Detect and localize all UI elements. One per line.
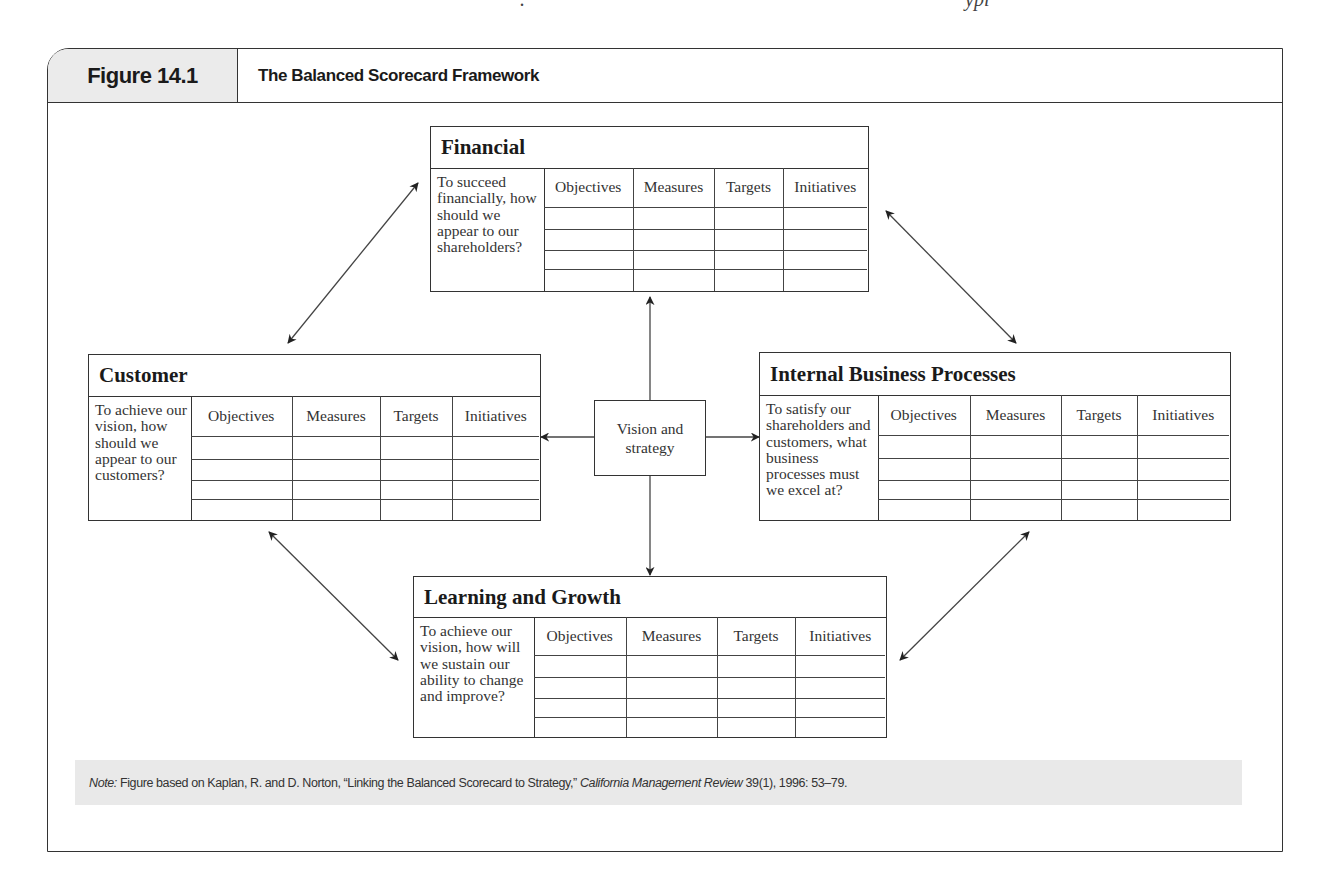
empty-cell (878, 458, 970, 480)
empty-cell (714, 250, 783, 269)
empty-cell (878, 480, 970, 499)
card-title: Learning and Growth (414, 577, 886, 618)
empty-cell (534, 698, 626, 717)
empty-cell (292, 436, 380, 459)
empty-cell (544, 229, 633, 250)
empty-cell (191, 480, 292, 499)
column-header-objectives: Objectives (534, 617, 626, 655)
vision-and-strategy-box: Vision and strategy (594, 400, 706, 476)
note-journal: California Management Review (580, 776, 743, 790)
arrow-customer-financial (288, 183, 418, 343)
card-financial: Financial To succeed financially, how sh… (430, 126, 869, 292)
empty-cell (714, 269, 783, 291)
empty-cell (1061, 499, 1137, 520)
column-header-measures: Measures (292, 396, 380, 436)
empty-cell (452, 499, 539, 520)
empty-cell (795, 677, 885, 698)
empty-cell (380, 499, 452, 520)
card-question: To succeed financially, how should we ap… (431, 169, 545, 291)
empty-cell (878, 435, 970, 458)
arrow-customer-learning (269, 532, 398, 660)
card-question: To satisfy our shareholders and customer… (760, 396, 879, 520)
column-header-initiatives: Initiatives (452, 396, 539, 436)
scorecard-table: Objectives Measures Targets Initiatives (534, 617, 885, 737)
empty-cell (714, 229, 783, 250)
empty-cell (1137, 458, 1229, 480)
scorecard-table: Objectives Measures Targets Initiatives (878, 395, 1229, 520)
empty-cell (970, 480, 1061, 499)
empty-cell (783, 229, 867, 250)
column-header-targets: Targets (380, 396, 452, 436)
card-customer: Customer To achieve our vision, how shou… (88, 354, 541, 521)
empty-cell (292, 480, 380, 499)
empty-cell (292, 459, 380, 480)
card-question: To achieve our vision, how should we app… (89, 397, 192, 520)
empty-cell (452, 480, 539, 499)
empty-cell (717, 717, 795, 737)
empty-cell (783, 250, 867, 269)
note-citation: 39(1), 1996: 53–79. (742, 776, 847, 790)
note-text: Figure based on Kaplan, R. and D. Norton… (117, 776, 580, 790)
empty-cell (795, 655, 885, 677)
empty-cell (534, 655, 626, 677)
empty-cell (783, 269, 867, 291)
card-title: Internal Business Processes (760, 353, 1230, 396)
empty-cell (1137, 480, 1229, 499)
empty-cell (626, 698, 717, 717)
empty-cell (292, 499, 380, 520)
column-header-initiatives: Initiatives (1137, 395, 1229, 435)
vision-label-line1: Vision and (617, 419, 684, 438)
empty-cell (380, 480, 452, 499)
empty-cell (795, 717, 885, 737)
empty-cell (544, 269, 633, 291)
vision-label-line2: strategy (617, 438, 684, 457)
arrow-internal-learning (900, 532, 1029, 660)
empty-cell (717, 698, 795, 717)
column-header-measures: Measures (626, 617, 717, 655)
empty-cell (633, 207, 714, 229)
empty-cell (970, 458, 1061, 480)
column-header-objectives: Objectives (544, 168, 633, 207)
scorecard-table: Objectives Measures Targets Initiatives (544, 168, 867, 291)
empty-cell (1137, 499, 1229, 520)
column-header-measures: Measures (970, 395, 1061, 435)
column-header-objectives: Objectives (878, 395, 970, 435)
empty-cell (633, 269, 714, 291)
empty-cell (970, 435, 1061, 458)
column-header-targets: Targets (717, 617, 795, 655)
column-header-targets: Targets (1061, 395, 1137, 435)
column-header-initiatives: Initiatives (783, 168, 867, 207)
empty-cell (626, 677, 717, 698)
empty-cell (544, 250, 633, 269)
empty-cell (534, 677, 626, 698)
scorecard-table: Objectives Measures Targets Initiatives (191, 396, 539, 520)
column-header-measures: Measures (633, 168, 714, 207)
empty-cell (544, 207, 633, 229)
empty-cell (783, 207, 867, 229)
empty-cell (633, 250, 714, 269)
card-internal-business-processes: Internal Business Processes To satisfy o… (759, 352, 1231, 521)
empty-cell (452, 436, 539, 459)
empty-cell (717, 655, 795, 677)
card-title: Financial (431, 127, 868, 169)
empty-cell (633, 229, 714, 250)
empty-cell (452, 459, 539, 480)
empty-cell (626, 717, 717, 737)
empty-cell (191, 499, 292, 520)
empty-cell (1061, 435, 1137, 458)
empty-cell (191, 436, 292, 459)
empty-cell (380, 436, 452, 459)
empty-cell (795, 698, 885, 717)
empty-cell (380, 459, 452, 480)
arrow-financial-internal (886, 211, 1016, 343)
empty-cell (1061, 458, 1137, 480)
figure-note: Note: Figure based on Kaplan, R. and D. … (75, 760, 1242, 805)
empty-cell (1137, 435, 1229, 458)
card-question: To achieve our vision, how will we susta… (414, 618, 535, 737)
note-prefix: Note: (89, 776, 117, 790)
empty-cell (534, 717, 626, 737)
empty-cell (970, 499, 1061, 520)
card-learning-and-growth: Learning and Growth To achieve our visio… (413, 576, 887, 738)
empty-cell (717, 677, 795, 698)
empty-cell (191, 459, 292, 480)
